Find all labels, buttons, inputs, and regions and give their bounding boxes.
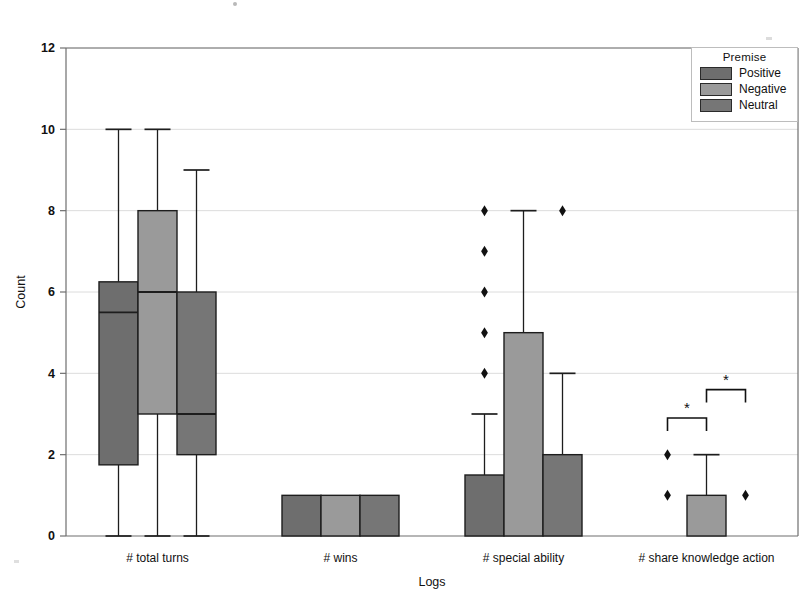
- ytick-label: 4: [48, 367, 55, 381]
- box-neutral-2[interactable]: [543, 205, 582, 536]
- box-series-layer: [99, 129, 749, 536]
- legend-label-neutral: Neutral: [739, 98, 778, 112]
- box-negative-1[interactable]: [321, 495, 360, 536]
- xtick-label: # special ability: [483, 551, 564, 565]
- ytick-label: 0: [48, 529, 55, 543]
- xtick-label: # wins: [323, 551, 357, 565]
- outlier-marker: [664, 490, 671, 501]
- legend-label-negative: Negative: [739, 82, 786, 96]
- legend: Premise Positive Negative Neutral: [691, 47, 798, 122]
- legend-item-positive[interactable]: Positive: [692, 65, 797, 81]
- legend-item-negative[interactable]: Negative: [692, 81, 797, 97]
- significance-bracket: *: [668, 399, 707, 431]
- box-positive-2[interactable]: [465, 205, 504, 536]
- outlier-marker: [559, 205, 566, 216]
- box-negative-3[interactable]: [687, 455, 726, 536]
- box-neutral-1[interactable]: [360, 495, 399, 536]
- outlier-marker: [481, 205, 488, 216]
- significance-star: *: [723, 371, 729, 388]
- ytick-label: 2: [48, 448, 55, 462]
- legend-swatch-negative: [700, 83, 732, 96]
- legend-item-neutral[interactable]: Neutral: [692, 97, 797, 113]
- outlier-marker: [481, 327, 488, 338]
- box-positive-3[interactable]: [664, 449, 671, 501]
- legend-swatch-positive: [700, 67, 732, 80]
- ytick-label: 10: [41, 123, 55, 137]
- outlier-marker: [742, 490, 749, 501]
- legend-label-positive: Positive: [739, 66, 781, 80]
- box-neutral-3[interactable]: [742, 490, 749, 501]
- chart-root: ** 024681012# total turns# wins# special…: [0, 0, 808, 602]
- ytick-label: 8: [48, 204, 55, 218]
- ytick-label: 12: [41, 41, 55, 55]
- legend-swatch-neutral: [700, 99, 732, 112]
- ytick-label: 6: [48, 285, 55, 299]
- annotation-layer: **: [668, 371, 746, 431]
- box-neutral-0[interactable]: [177, 170, 216, 536]
- legend-title: Premise: [692, 48, 797, 65]
- box-plot-canvas: ** 024681012# total turns# wins# special…: [0, 0, 808, 602]
- box-negative-0[interactable]: [138, 129, 177, 536]
- xtick-label: # share knowledge action: [638, 551, 774, 565]
- outlier-marker: [664, 449, 671, 460]
- outlier-marker: [481, 368, 488, 379]
- box-positive-1[interactable]: [282, 495, 321, 536]
- axis-ticks: [60, 48, 66, 536]
- significance-star: *: [684, 399, 690, 416]
- outlier-marker: [481, 246, 488, 257]
- x-axis-title: Logs: [418, 575, 445, 589]
- y-axis-title: Count: [14, 275, 28, 309]
- significance-bracket: *: [707, 371, 746, 403]
- box-negative-2[interactable]: [504, 211, 543, 536]
- outlier-marker: [481, 287, 488, 298]
- box-positive-0[interactable]: [99, 129, 138, 536]
- xtick-label: # total turns: [126, 551, 189, 565]
